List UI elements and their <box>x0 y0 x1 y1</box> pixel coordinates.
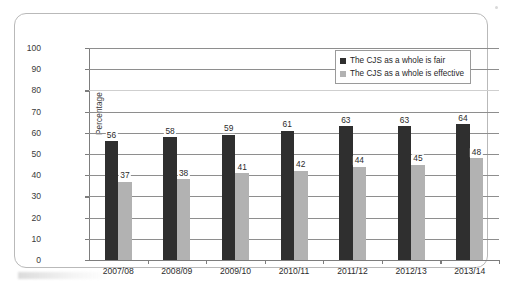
bar-effective <box>177 179 191 260</box>
x-axis-tick-label: 2013/14 <box>435 266 505 276</box>
chart-canvas: Percentage 0102030405060708090100 563758… <box>15 14 487 267</box>
y-axis-tick-label: 70 <box>1 107 41 117</box>
legend-swatch-fair-icon <box>340 58 346 64</box>
legend-label-fair: The CJS as a whole is fair <box>350 56 445 65</box>
legend-label-effective: The CJS as a whole is effective <box>350 69 464 78</box>
bar-group: 5838 <box>163 48 190 260</box>
bar-value-label: 59 <box>223 125 235 134</box>
y-axis-tick-label: 60 <box>1 128 41 138</box>
y-axis-tick-label: 90 <box>1 64 41 74</box>
bar-value-label: 58 <box>164 127 176 136</box>
legend-swatch-effective-icon <box>340 71 346 77</box>
x-axis-tick-mark <box>499 260 500 264</box>
y-axis-tick-label: 0 <box>1 255 41 265</box>
bar-value-label: 41 <box>236 163 248 172</box>
legend-item-effective: The CJS as a whole is effective <box>340 67 464 80</box>
scan-artifact-smudge <box>18 272 110 279</box>
bar-value-label: 38 <box>177 169 189 178</box>
bar-group: 6142 <box>281 48 308 260</box>
x-axis-tick-mark <box>265 260 266 264</box>
bar-value-label: 63 <box>340 116 352 125</box>
bar-group: 5637 <box>105 48 132 260</box>
bar-value-label: 61 <box>281 120 293 129</box>
y-axis-tick-label: 40 <box>1 170 41 180</box>
bar-value-label: 42 <box>295 161 307 170</box>
y-axis-tick-label: 80 <box>1 85 41 95</box>
y-axis-tick-label: 100 <box>1 43 41 53</box>
bar-effective <box>353 167 367 260</box>
bar-fair <box>339 126 353 260</box>
chart-frame: Percentage 0102030405060708090100 563758… <box>14 13 488 268</box>
bar-effective <box>470 158 484 260</box>
bar-fair <box>398 126 412 260</box>
bar-fair <box>281 131 295 260</box>
bar-value-label: 37 <box>119 171 131 180</box>
bar-group: 5941 <box>222 48 249 260</box>
bar-value-label: 64 <box>457 114 469 123</box>
x-axis-tick-mark <box>323 260 324 264</box>
bar-value-label: 63 <box>398 116 410 125</box>
bar-value-label: 48 <box>470 148 482 157</box>
bar-fair <box>222 135 236 260</box>
bar-fair <box>163 137 177 260</box>
y-axis-tick-label: 30 <box>1 191 41 201</box>
bar-fair <box>456 124 470 260</box>
bar-effective <box>118 182 132 260</box>
scan-artifact-dot <box>495 6 498 9</box>
x-axis-tick-mark <box>440 260 441 264</box>
bar-fair <box>105 141 119 260</box>
x-axis-tick-mark <box>148 260 149 264</box>
y-axis-tick-label: 50 <box>1 149 41 159</box>
bar-effective <box>411 165 425 260</box>
x-axis-tick-mark <box>206 260 207 264</box>
bar-value-label: 44 <box>353 156 365 165</box>
bar-value-label: 45 <box>412 154 424 163</box>
bar-effective <box>235 173 249 260</box>
y-axis-tick-label: 20 <box>1 213 41 223</box>
x-axis-tick-mark <box>382 260 383 264</box>
chart-legend: The CJS as a whole is fair The CJS as a … <box>335 50 471 84</box>
x-axis-line <box>89 260 499 261</box>
bar-effective <box>294 171 308 260</box>
legend-item-fair: The CJS as a whole is fair <box>340 54 464 67</box>
y-axis-tick-label: 10 <box>1 234 41 244</box>
bar-value-label: 56 <box>105 131 117 140</box>
